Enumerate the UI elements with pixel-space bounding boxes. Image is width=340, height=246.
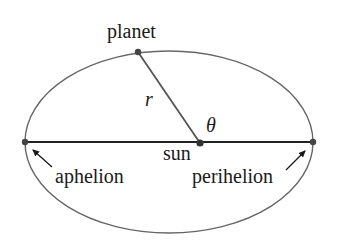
angle-label: θ [206,114,216,136]
orbit-diagram: planet r θ sun aphelion perihelion [0,0,340,246]
radius-label: r [145,88,153,110]
planet-label: planet [107,20,156,43]
aphelion-dot [22,139,28,145]
perihelion-dot [310,139,316,145]
perihelion-arrow [286,151,305,170]
aphelion-label: aphelion [55,165,124,188]
aphelion-arrow [33,150,52,167]
sun-label: sun [163,142,191,164]
planet-dot [135,49,141,55]
orbit-diagram-canvas: planet r θ sun aphelion perihelion [0,0,340,246]
sun-dot [196,139,203,146]
perihelion-label: perihelion [192,165,273,188]
